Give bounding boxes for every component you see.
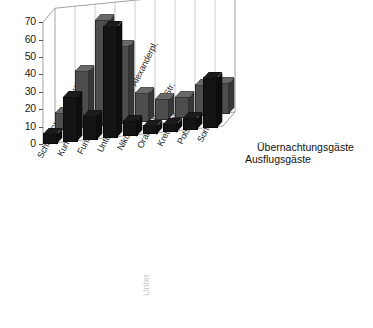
bar-side-face	[176, 119, 183, 133]
bar-1-7	[183, 120, 196, 130]
y-axis-tick-mark	[39, 109, 43, 110]
chart-canvas: 010203040506070 Schloß CharlottenburgKur…	[0, 0, 373, 328]
bar-1-6	[163, 125, 176, 132]
bar-side-face	[156, 121, 163, 135]
bar-side-face	[56, 129, 63, 145]
bar-1-4	[123, 122, 136, 136]
y-axis-tick-mark	[39, 40, 43, 41]
bar-1-0	[43, 135, 56, 144]
bar-side-face	[76, 92, 83, 143]
bar-1-1	[63, 99, 76, 143]
y-axis-tick-mark	[39, 92, 43, 93]
y-axis-tick-label: 20	[10, 102, 36, 114]
bar-side-face	[128, 41, 135, 125]
bar-side-face	[148, 88, 155, 123]
bar-side-face	[96, 111, 103, 141]
y-axis-tick-mark	[39, 74, 43, 75]
bar-1-2	[83, 117, 96, 140]
y-axis-tick-mark	[39, 57, 43, 58]
bar-1-3	[103, 28, 116, 138]
y-axis-tick-label: 10	[10, 120, 36, 132]
bar-side-face	[216, 73, 223, 129]
y-axis-tick-label: 40	[10, 67, 36, 79]
legend-entry-0: Übernachtungsgäste	[257, 141, 354, 153]
y-axis-tick-label: 70	[10, 15, 36, 27]
chart-3d-frame	[0, 0, 373, 328]
legend-entry-1: Ausflugsgäste	[245, 153, 311, 165]
y-axis-tick-label: 0	[10, 137, 36, 149]
bar-1-8	[203, 79, 216, 128]
bar-1-5	[143, 127, 156, 134]
figure-caption: Unter	[141, 274, 151, 296]
y-axis-tick-label: 60	[10, 33, 36, 45]
bar-side-face	[228, 78, 235, 115]
y-axis-tick-mark	[39, 22, 43, 23]
y-axis-tick-label: 30	[10, 85, 36, 97]
bar-side-face	[136, 116, 143, 137]
bar-side-face	[116, 22, 123, 139]
y-axis-tick-label: 50	[10, 50, 36, 62]
bar-side-face	[196, 113, 203, 131]
